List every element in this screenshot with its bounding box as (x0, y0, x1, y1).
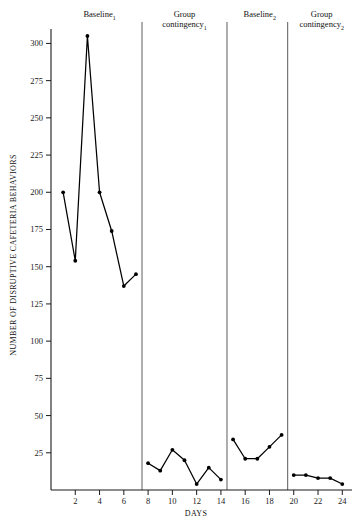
phase-label: contingency2 (299, 19, 344, 31)
y-tick-label: 50 (35, 411, 44, 421)
data-point (292, 473, 296, 477)
y-tick-label: 175 (30, 224, 43, 234)
x-axis-title: DAYS (185, 509, 207, 518)
data-point (219, 478, 223, 482)
y-tick-label: 150 (30, 262, 43, 272)
y-tick-label: 200 (30, 187, 43, 197)
series-line (63, 36, 136, 286)
data-point (328, 476, 332, 480)
phase-label: Group (174, 9, 196, 19)
x-tick-label: 6 (122, 496, 126, 506)
data-series-group (61, 34, 344, 486)
x-tick-label: 22 (314, 496, 323, 506)
phase-label: contingency1 (162, 19, 207, 31)
data-point (61, 190, 65, 194)
data-point (170, 448, 174, 452)
axis-group (51, 29, 352, 490)
chart-figure: Baseline1Groupcontingency1Baseline2Group… (0, 0, 362, 526)
phase-label: Group (311, 9, 333, 19)
x-tick-label: 10 (168, 496, 177, 506)
data-point (316, 476, 320, 480)
y-tick-label: 275 (30, 76, 43, 86)
data-point (86, 34, 90, 38)
x-tick-label: 8 (146, 496, 150, 506)
data-point (183, 458, 187, 462)
y-tick-label: 75 (35, 373, 44, 383)
data-point (195, 482, 199, 486)
y-axis-title: NUMBER OF DISRUPTIVE CAFETERIA BEHAVIORS (9, 154, 18, 355)
data-point (207, 466, 211, 470)
y-tick-label: 125 (30, 299, 43, 309)
x-tick-label: 16 (241, 496, 250, 506)
data-point (243, 457, 247, 461)
line-chart-canvas: Baseline1Groupcontingency1Baseline2Group… (0, 0, 362, 526)
data-point (98, 190, 102, 194)
y-tick-label: 225 (30, 150, 43, 160)
y-tick-label: 100 (30, 336, 43, 346)
x-tick-label: 20 (289, 496, 298, 506)
x-tick-group: 24681012141618202224 (73, 490, 347, 506)
y-tick-label: 25 (35, 448, 44, 458)
x-tick-label: 14 (217, 496, 226, 506)
x-tick-label: 24 (338, 496, 347, 506)
y-tick-label: 300 (30, 38, 43, 48)
x-tick-label: 18 (265, 496, 274, 506)
data-point (73, 259, 77, 263)
x-tick-label: 12 (192, 496, 201, 506)
data-point (268, 445, 272, 449)
series-line (233, 435, 282, 459)
data-point (134, 272, 138, 276)
data-point (146, 461, 150, 465)
data-point (340, 482, 344, 486)
phase-label-group: Baseline1Groupcontingency1Baseline2Group… (83, 9, 344, 31)
x-tick-label: 2 (73, 496, 77, 506)
y-tick-label: 250 (30, 113, 43, 123)
data-point (304, 473, 308, 477)
phase-label: Baseline1 (83, 9, 115, 21)
data-point (110, 229, 114, 233)
x-tick-label: 4 (97, 496, 102, 506)
data-point (158, 469, 162, 473)
data-point (122, 284, 126, 288)
data-point (231, 437, 235, 441)
data-point (255, 457, 259, 461)
phase-label: Baseline2 (244, 9, 276, 21)
data-point (280, 433, 284, 437)
y-tick-group: 255075100125150175200225250275300 (30, 38, 51, 457)
phase-divider-group (142, 22, 288, 490)
